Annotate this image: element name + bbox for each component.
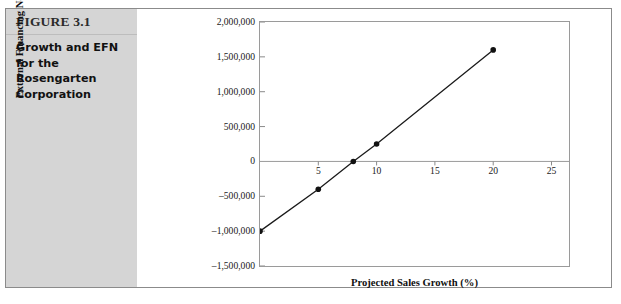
efn-line (260, 50, 493, 231)
data-point-marker (316, 187, 322, 193)
y-axis-tick-label: 0 (250, 156, 255, 166)
y-axis-tick-label: 1,000,000 (217, 87, 255, 97)
y-axis-title: External Financing Needed ($) (14, 0, 30, 152)
x-axis-tick-label: 25 (540, 166, 564, 176)
y-axis-tick-label: –500,000 (219, 191, 255, 201)
y-axis-tick-labels: 2,000,0001,500,0001,000,000500,0000–500,… (147, 21, 255, 267)
data-point-marker (350, 159, 356, 165)
data-point-marker (490, 47, 496, 53)
y-axis-tick-label: 500,000 (224, 122, 255, 132)
figure-container: FIGURE 3.1 Growth and EFN for the Roseng… (5, 8, 612, 288)
x-axis-tick-labels: 510152025 (259, 166, 570, 186)
x-axis-tick-label: 20 (481, 166, 505, 176)
chart-plot-frame (259, 21, 570, 267)
y-axis-tick-label: –1,000,000 (212, 226, 255, 236)
x-axis-tick-label: 10 (365, 166, 389, 176)
chart-plot-area (260, 22, 569, 266)
x-axis-tick-label: 5 (306, 166, 330, 176)
y-axis-tick-label: 1,500,000 (217, 52, 255, 62)
data-point-marker (374, 141, 380, 147)
x-axis-title: Projected Sales Growth (%) (259, 277, 570, 288)
figure-caption-text: Growth and EFN for the Rosengarten Corpo… (16, 40, 131, 102)
y-axis-tick-label: 2,000,000 (217, 17, 255, 27)
chart-line-series (260, 22, 569, 266)
x-axis-tick-label: 15 (423, 166, 447, 176)
chart-panel: External Financing Needed ($) 2,000,0001… (137, 9, 611, 287)
y-axis-tick-label: –1,500,000 (212, 261, 255, 271)
